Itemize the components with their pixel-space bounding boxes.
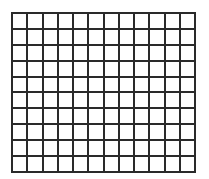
grid-cell[interactable] <box>27 29 42 45</box>
grid-cell[interactable] <box>12 61 27 77</box>
grid-cell[interactable] <box>180 156 195 172</box>
grid-cell[interactable] <box>134 45 149 61</box>
grid-cell[interactable] <box>134 140 149 156</box>
grid-cell[interactable] <box>88 45 103 61</box>
grid-cell[interactable] <box>119 45 134 61</box>
grid-cell[interactable] <box>180 29 195 45</box>
grid-cell[interactable] <box>134 13 149 29</box>
grid-cell[interactable] <box>12 124 27 140</box>
grid-cell[interactable] <box>104 124 119 140</box>
grid-cell[interactable] <box>88 77 103 93</box>
grid-cell[interactable] <box>134 77 149 93</box>
grid-cell[interactable] <box>119 29 134 45</box>
grid-cell[interactable] <box>165 124 180 140</box>
grid-cell[interactable] <box>119 13 134 29</box>
grid-cell[interactable] <box>73 140 88 156</box>
grid-cell[interactable] <box>165 29 180 45</box>
grid-cell[interactable] <box>12 29 27 45</box>
grid-cell[interactable] <box>58 77 73 93</box>
grid-cell[interactable] <box>73 45 88 61</box>
grid-cell[interactable] <box>43 13 58 29</box>
grid-cell[interactable] <box>149 92 164 108</box>
grid-cell[interactable] <box>134 92 149 108</box>
grid-cell[interactable] <box>12 92 27 108</box>
grid-cell[interactable] <box>88 92 103 108</box>
grid-cell[interactable] <box>58 124 73 140</box>
grid-cell[interactable] <box>73 108 88 124</box>
grid-cell[interactable] <box>134 108 149 124</box>
grid-cell[interactable] <box>58 92 73 108</box>
grid-cell[interactable] <box>165 92 180 108</box>
grid-cell[interactable] <box>180 108 195 124</box>
grid-cell[interactable] <box>43 61 58 77</box>
grid-cell[interactable] <box>119 92 134 108</box>
grid-cell[interactable] <box>43 156 58 172</box>
grid-cell[interactable] <box>119 61 134 77</box>
grid-cell[interactable] <box>27 108 42 124</box>
grid-cell[interactable] <box>73 13 88 29</box>
grid-cell[interactable] <box>12 108 27 124</box>
grid-cell[interactable] <box>180 124 195 140</box>
grid-cell[interactable] <box>27 61 42 77</box>
grid-cell[interactable] <box>104 13 119 29</box>
grid-cell[interactable] <box>149 77 164 93</box>
grid-cell[interactable] <box>58 45 73 61</box>
grid-cell[interactable] <box>12 77 27 93</box>
grid-cell[interactable] <box>27 156 42 172</box>
grid-cell[interactable] <box>58 108 73 124</box>
grid-cell[interactable] <box>104 92 119 108</box>
grid-cell[interactable] <box>180 77 195 93</box>
grid-cell[interactable] <box>73 124 88 140</box>
grid-cell[interactable] <box>27 77 42 93</box>
grid-cell[interactable] <box>27 13 42 29</box>
grid-cell[interactable] <box>165 156 180 172</box>
grid-cell[interactable] <box>88 140 103 156</box>
grid-cell[interactable] <box>104 45 119 61</box>
grid-cell[interactable] <box>165 45 180 61</box>
grid-cell[interactable] <box>180 140 195 156</box>
grid-cell[interactable] <box>180 92 195 108</box>
grid-cell[interactable] <box>149 124 164 140</box>
grid-cell[interactable] <box>43 29 58 45</box>
grid-cell[interactable] <box>88 124 103 140</box>
grid-cell[interactable] <box>88 108 103 124</box>
grid-cell[interactable] <box>134 61 149 77</box>
grid-cell[interactable] <box>58 156 73 172</box>
grid-cell[interactable] <box>43 77 58 93</box>
grid-cell[interactable] <box>104 77 119 93</box>
grid-cell[interactable] <box>43 140 58 156</box>
grid-cell[interactable] <box>149 29 164 45</box>
grid-cell[interactable] <box>27 45 42 61</box>
grid-cell[interactable] <box>73 61 88 77</box>
grid-cell[interactable] <box>43 108 58 124</box>
grid-cell[interactable] <box>180 13 195 29</box>
grid-cell[interactable] <box>12 140 27 156</box>
grid-cell[interactable] <box>104 61 119 77</box>
grid-cell[interactable] <box>149 61 164 77</box>
grid-cell[interactable] <box>88 61 103 77</box>
grid-cell[interactable] <box>88 13 103 29</box>
grid-cell[interactable] <box>58 140 73 156</box>
grid-cell[interactable] <box>27 140 42 156</box>
grid-cell[interactable] <box>119 156 134 172</box>
grid-cell[interactable] <box>12 156 27 172</box>
grid-cell[interactable] <box>149 45 164 61</box>
grid-cell[interactable] <box>88 156 103 172</box>
grid-cell[interactable] <box>165 61 180 77</box>
grid-cell[interactable] <box>149 140 164 156</box>
grid-cell[interactable] <box>104 140 119 156</box>
grid-cell[interactable] <box>12 45 27 61</box>
grid-cell[interactable] <box>134 124 149 140</box>
grid-cell[interactable] <box>27 124 42 140</box>
grid-cell[interactable] <box>104 29 119 45</box>
grid-cell[interactable] <box>119 140 134 156</box>
grid-cell[interactable] <box>73 92 88 108</box>
grid-cell[interactable] <box>43 92 58 108</box>
grid-cell[interactable] <box>165 108 180 124</box>
grid-cell[interactable] <box>165 140 180 156</box>
grid-cell[interactable] <box>149 13 164 29</box>
grid-cell[interactable] <box>180 45 195 61</box>
grid-cell[interactable] <box>165 13 180 29</box>
grid-cell[interactable] <box>165 77 180 93</box>
grid-cell[interactable] <box>27 92 42 108</box>
